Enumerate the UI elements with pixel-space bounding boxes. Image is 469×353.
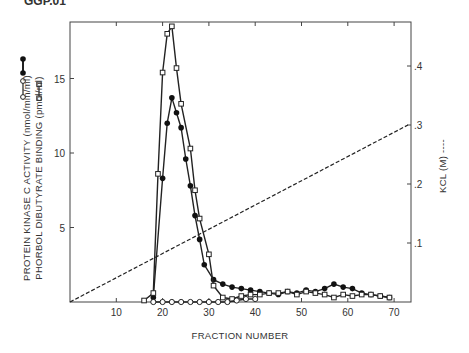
plot-border xyxy=(70,22,411,302)
open-circle-marker xyxy=(151,299,156,304)
x-tick-label: 10 xyxy=(111,307,123,318)
open-square-marker xyxy=(332,295,337,300)
open-square-marker xyxy=(160,70,165,75)
open-square-marker xyxy=(179,102,184,107)
x-tick-label: 30 xyxy=(203,307,215,318)
left-y-axis-title-line2: PHORBOL DIBUTYRATE BINDING (pmol/ml) xyxy=(33,76,44,279)
open-square-marker xyxy=(378,294,383,299)
open-square-marker xyxy=(151,291,156,296)
open-square-marker xyxy=(285,289,290,294)
left-y-axis-ticks: 51015 xyxy=(54,74,74,234)
filled-circle-marker xyxy=(201,262,207,268)
open-square-marker xyxy=(258,292,263,297)
filled-circle-marker xyxy=(164,120,170,126)
open-square-marker xyxy=(369,292,374,297)
x-tick-label: 70 xyxy=(389,307,401,318)
open-square-marker xyxy=(220,295,225,300)
legend-filled-circle-icon xyxy=(20,70,26,76)
filled-circle-marker xyxy=(340,284,346,290)
open-square-marker xyxy=(276,291,281,296)
filled-circle-marker xyxy=(322,286,328,292)
open-circle-marker xyxy=(188,299,193,304)
plot-frame xyxy=(70,22,411,302)
open-square-marker xyxy=(156,172,161,177)
open-square-marker xyxy=(165,32,170,37)
x-tick-label: 40 xyxy=(250,307,262,318)
open-circle-marker xyxy=(160,299,165,304)
open-square-marker xyxy=(142,298,147,303)
chart: 10203040506070 51015 .1.2.3.4 FRACTION N… xyxy=(0,0,469,353)
right-y-tick-label: .2 xyxy=(414,179,423,190)
filled-circle-marker xyxy=(169,95,175,101)
series-line xyxy=(144,26,389,300)
open-square-marker xyxy=(207,252,212,257)
open-square-marker xyxy=(341,292,346,297)
open-square-marker xyxy=(197,216,202,221)
x-tick-label: 50 xyxy=(296,307,308,318)
open-square-marker xyxy=(322,292,327,297)
open-circle-marker xyxy=(234,298,239,303)
open-circle-marker xyxy=(216,299,221,304)
open-square-marker xyxy=(174,66,179,71)
open-square-marker xyxy=(193,188,198,193)
x-tick-label: 20 xyxy=(157,307,169,318)
open-circle-marker xyxy=(206,299,211,304)
open-square-marker xyxy=(295,292,300,297)
open-square-marker xyxy=(359,292,364,297)
right-y-axis-ticks: .1.2.3.4 xyxy=(407,61,423,249)
open-circle-marker xyxy=(169,299,174,304)
series-line xyxy=(153,98,389,298)
right-y-tick-label: .1 xyxy=(414,238,423,249)
open-square-marker xyxy=(267,291,272,296)
open-square-marker xyxy=(170,24,175,29)
series-line xyxy=(70,125,408,302)
legend-filled-circle-icon xyxy=(20,56,26,62)
open-circle-marker xyxy=(179,299,184,304)
open-circle-marker xyxy=(197,299,202,304)
filled-circle-marker xyxy=(331,281,337,287)
left-y-tick-label: 5 xyxy=(59,223,65,234)
open-square-marker xyxy=(248,292,253,297)
filled-circle-marker xyxy=(197,237,203,243)
filled-circle-marker xyxy=(174,110,180,116)
open-square-marker xyxy=(350,294,355,299)
filled-circle-marker xyxy=(178,125,184,131)
filled-circle-marker xyxy=(350,286,356,292)
filled-circle-marker xyxy=(220,281,226,287)
right-y-tick-label: .3 xyxy=(414,120,423,131)
open-circle-marker xyxy=(243,296,248,301)
filled-circle-marker xyxy=(229,284,235,290)
right-y-tick-label: .4 xyxy=(414,61,423,72)
right-y-axis-title: KCL (M) ---- xyxy=(437,139,448,193)
open-circle-marker xyxy=(225,299,230,304)
open-square-marker xyxy=(239,294,244,299)
left-y-tick-label: 15 xyxy=(54,74,66,85)
filled-circle-marker xyxy=(183,156,189,162)
open-square-marker xyxy=(313,291,318,296)
left-y-axis-title-line1: PROTEIN KINASE C ACTIVITY (nmol/min/ml) xyxy=(21,75,32,281)
x-axis-title: FRACTION NUMBER xyxy=(192,330,289,341)
data-series xyxy=(70,24,408,305)
left-y-tick-label: 10 xyxy=(54,148,66,159)
open-square-marker xyxy=(188,146,193,151)
open-square-marker xyxy=(387,295,392,300)
x-tick-label: 60 xyxy=(342,307,354,318)
open-square-marker xyxy=(211,283,216,288)
filled-circle-marker xyxy=(239,286,245,292)
open-square-marker xyxy=(304,289,309,294)
open-circle-marker xyxy=(253,296,258,301)
